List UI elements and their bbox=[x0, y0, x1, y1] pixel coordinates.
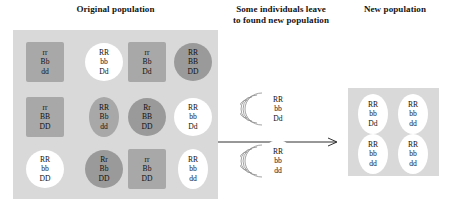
organism-cell: RRbbDd bbox=[358, 94, 388, 134]
allele-r: RR bbox=[188, 48, 198, 57]
allele-r: RR bbox=[273, 95, 283, 104]
allele-b: bb bbox=[100, 57, 108, 66]
allele-b: Bb bbox=[100, 112, 109, 121]
organism-cell: RrBbDD bbox=[85, 150, 123, 188]
allele-b: bb bbox=[409, 149, 417, 158]
allele-b: BB bbox=[188, 57, 198, 66]
allele-d: Dd bbox=[142, 67, 151, 76]
allele-d: Dd bbox=[368, 119, 377, 128]
allele-d: DD bbox=[40, 122, 51, 131]
allele-r: Rr bbox=[100, 155, 108, 164]
new-population-title: New population bbox=[344, 4, 446, 15]
allele-r: RR bbox=[408, 100, 418, 109]
allele-d: dd bbox=[189, 174, 197, 183]
allele-d: dd bbox=[369, 159, 377, 168]
organism-cell: RRbbdd bbox=[398, 94, 428, 134]
allele-d: dd bbox=[409, 159, 417, 168]
allele-d: dd bbox=[409, 119, 417, 128]
allele-r: RR bbox=[273, 147, 283, 156]
allele-d: Dd bbox=[273, 114, 282, 123]
allele-b: Bb bbox=[143, 57, 152, 66]
allele-r: RR bbox=[408, 140, 418, 149]
organism-cell: RRBBDD bbox=[174, 43, 212, 81]
allele-r: RR bbox=[99, 48, 109, 57]
original-population-panel: rrBbddRRbbDdrrBbDdRRBBDDrrBBDDRRBbddRrBB… bbox=[13, 30, 218, 199]
organism-cell: RRbbDD bbox=[26, 150, 64, 188]
allele-d: DD bbox=[99, 174, 110, 183]
allele-r: RR bbox=[368, 140, 378, 149]
allele-b: Bb bbox=[41, 57, 50, 66]
allele-b: bb bbox=[409, 109, 417, 118]
migration-title-line2: to found new population bbox=[218, 15, 344, 26]
allele-b: bb bbox=[189, 112, 197, 121]
organism-cell: RRBbdd bbox=[89, 97, 119, 137]
allele-b: bb bbox=[369, 109, 377, 118]
allele-r: rr bbox=[42, 48, 47, 57]
allele-b: BB bbox=[142, 112, 152, 121]
organism-cell: RRbbDd bbox=[85, 43, 123, 81]
allele-r: Rr bbox=[143, 103, 151, 112]
allele-d: dd bbox=[41, 67, 49, 76]
allele-r: RR bbox=[188, 155, 198, 164]
allele-r: RR bbox=[40, 155, 50, 164]
organism-cell: RrBBDD bbox=[128, 98, 166, 136]
allele-b: bb bbox=[274, 104, 282, 113]
allele-b: bb bbox=[41, 164, 49, 173]
allele-r: rr bbox=[42, 103, 47, 112]
allele-d: dd bbox=[100, 122, 108, 131]
original-population-title: Original population bbox=[13, 4, 218, 15]
allele-r: RR bbox=[188, 103, 198, 112]
allele-d: DD bbox=[142, 122, 153, 131]
new-population-panel: RRbbDdRRbbddRRbbddRRbbdd bbox=[348, 88, 439, 176]
allele-b: bb bbox=[369, 149, 377, 158]
organism-cell: rrBbdd bbox=[26, 42, 64, 82]
migration-title-line1: Some individuals leave bbox=[218, 4, 344, 15]
organism-cell: RRbbdd bbox=[398, 134, 428, 174]
allele-r: rr bbox=[144, 48, 149, 57]
migration-area: RR bb Dd RR bb dd bbox=[218, 88, 344, 188]
allele-b: Bb bbox=[143, 164, 152, 173]
allele-d: DD bbox=[142, 174, 153, 183]
organism-cell: RRbbDd bbox=[174, 98, 212, 136]
allele-d: Dd bbox=[188, 122, 197, 131]
migrant-organism: RR bb dd bbox=[261, 140, 295, 182]
organism-cell: rrBBDD bbox=[26, 97, 64, 137]
migrant-organism: RR bb Dd bbox=[261, 88, 295, 130]
allele-d: Dd bbox=[99, 67, 108, 76]
allele-d: dd bbox=[274, 166, 282, 175]
allele-r: RR bbox=[368, 100, 378, 109]
allele-r: rr bbox=[144, 155, 149, 164]
organism-cell: rrBbDd bbox=[128, 42, 166, 82]
allele-b: BB bbox=[40, 112, 50, 121]
allele-b: bb bbox=[189, 164, 197, 173]
migration-title: Some individuals leave to found new popu… bbox=[218, 4, 344, 26]
allele-b: bb bbox=[274, 156, 282, 165]
organism-cell: RRbbdd bbox=[358, 134, 388, 174]
organism-cell: RRbbdd bbox=[178, 149, 208, 189]
allele-b: Bb bbox=[100, 164, 109, 173]
allele-d: DD bbox=[40, 174, 51, 183]
allele-d: DD bbox=[188, 67, 199, 76]
allele-r: RR bbox=[99, 103, 109, 112]
organism-cell: rrBbDD bbox=[128, 149, 166, 189]
